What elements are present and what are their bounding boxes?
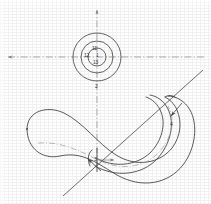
centerline-group [8, 10, 204, 166]
label-bore-left: 12 [84, 53, 89, 58]
label-axis-lower: 2 [95, 84, 98, 89]
body-outer-contour [27, 97, 180, 162]
label-bore-center: 1 [96, 53, 99, 58]
label-bore-upper: 11 [92, 46, 97, 51]
label-body-left: 3 [94, 157, 97, 162]
label-body-right: 4 [170, 122, 173, 127]
leader-right-arrow [171, 103, 182, 116]
section-line-segment [63, 70, 203, 196]
arc-centerline-path [38, 106, 172, 167]
patent-figure [0, 0, 211, 204]
section-cut-line [63, 70, 203, 196]
body-arc-centerline [38, 106, 172, 167]
label-bore-lower: 13 [93, 60, 98, 65]
crescent-body [27, 95, 195, 183]
body-inner-wall-upper [96, 97, 163, 164]
body-throat-left [88, 150, 92, 166]
